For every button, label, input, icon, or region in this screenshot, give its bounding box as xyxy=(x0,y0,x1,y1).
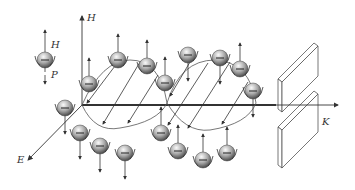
e-field-arrows xyxy=(87,62,248,128)
electron-particle xyxy=(70,125,90,159)
wave-envelope xyxy=(82,60,256,130)
legend-h-label: H xyxy=(50,39,60,50)
electron-particle xyxy=(115,145,135,179)
electron-particle xyxy=(193,134,213,168)
h-axis-label: H xyxy=(86,12,96,23)
e-axis-label: E xyxy=(16,154,25,165)
electron-particle xyxy=(90,138,110,172)
electron-particle xyxy=(217,127,237,161)
em-wave-diagram: H E K H P xyxy=(0,0,355,190)
legend: H P xyxy=(35,30,60,84)
electrons xyxy=(55,34,263,179)
electron-particle xyxy=(230,43,250,77)
slit-plates xyxy=(278,43,318,168)
electron-particle xyxy=(243,83,263,117)
electron-particle xyxy=(108,34,128,68)
electron-particle xyxy=(151,107,171,141)
legend-p-label: P xyxy=(50,69,58,80)
electron-particle xyxy=(155,57,175,91)
k-axis-label: K xyxy=(321,116,330,127)
electron-particle xyxy=(137,40,157,74)
